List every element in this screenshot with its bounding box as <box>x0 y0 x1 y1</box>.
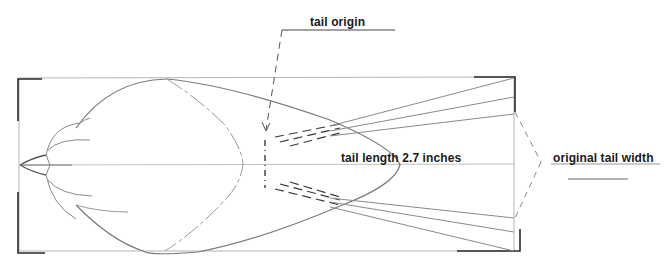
tail-length-label: tail length 2.7 inches <box>341 151 461 165</box>
body-outline <box>76 79 400 254</box>
bird-tail-diagram <box>0 0 672 270</box>
original-tail-width-label: original tail width <box>553 151 654 165</box>
beak <box>20 155 72 175</box>
head-outline <box>46 118 92 219</box>
tail-width-chevron <box>515 112 541 218</box>
tail-width-underlines <box>551 164 660 179</box>
tail-origin-leader <box>262 30 395 131</box>
tail-origin-label: tail origin <box>310 15 365 29</box>
